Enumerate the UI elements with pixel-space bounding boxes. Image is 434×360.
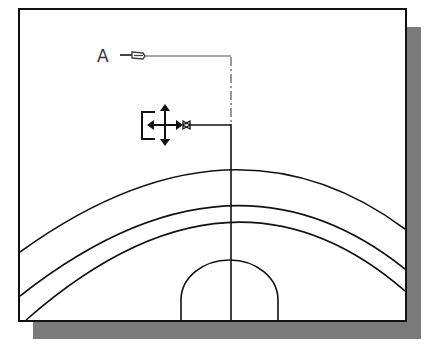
cad-drawing: A (0, 0, 434, 360)
section-label: A (97, 46, 109, 66)
